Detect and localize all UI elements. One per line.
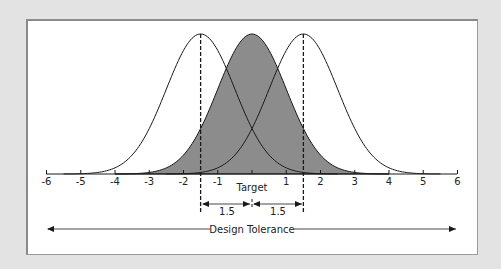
axis-tick-label: -4: [110, 176, 120, 187]
right-shift-label: 1.5: [270, 206, 286, 217]
axis-tick-label: -6: [42, 176, 52, 187]
axis-tick-label: 1: [283, 176, 289, 187]
centered-curve-fill: [115, 34, 389, 174]
axis-tick-label: -5: [76, 176, 86, 187]
axis-tick-label: 2: [317, 176, 323, 187]
axis-tick-label: -3: [144, 176, 154, 187]
axis-tick-label: 4: [386, 176, 392, 187]
axis-tick-label: 5: [420, 176, 426, 187]
axis-tick-label: 3: [352, 176, 358, 187]
design-tolerance-label: Design Tolerance: [209, 224, 294, 235]
left-shift-label: 1.5: [219, 206, 235, 217]
axis-tick-label: -1: [213, 176, 223, 187]
centered-distribution-curve: [115, 34, 389, 174]
target-label: Target: [236, 182, 268, 193]
six-sigma-shift-diagram: -6-5-4-3-2-1123456 Target 1.5 1.5 Design…: [0, 0, 501, 269]
axis-tick-label: -2: [179, 176, 189, 187]
axis-tick-label: 6: [454, 176, 460, 187]
